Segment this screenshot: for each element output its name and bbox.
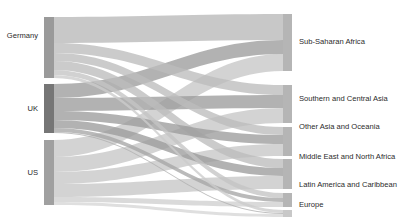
sankey-node-oao[interactable]: [283, 127, 292, 156]
sankey-node-europe[interactable]: [283, 210, 292, 217]
sankey-label-europe: Europe: [299, 200, 324, 209]
sankey-canvas: GermanyUKUSSub-Saharan AfricaSouthern an…: [0, 0, 413, 223]
sankey-links-layer: [54, 14, 283, 217]
sankey-label-oao: Other Asia and Oceania: [299, 122, 380, 131]
sankey-node-ssa[interactable]: [283, 14, 292, 71]
sankey-label-mena: Middle East and North Africa: [299, 152, 396, 161]
sankey-node-germany[interactable]: [44, 17, 54, 78]
sankey-node-us[interactable]: [44, 140, 54, 205]
sankey-node-mena[interactable]: [283, 159, 292, 189]
sankey-label-germany: Germany: [7, 31, 38, 40]
sankey-node-sca[interactable]: [283, 85, 292, 123]
sankey-label-uk: UK: [27, 104, 38, 113]
sankey-label-ssa: Sub-Saharan Africa: [299, 37, 366, 46]
sankey-link-germany-to-ssa[interactable]: [54, 14, 283, 43]
sankey-node-uk[interactable]: [44, 84, 54, 133]
sankey-node-lac[interactable]: [283, 193, 292, 207]
sankey-label-sca: Southern and Central Asia: [299, 94, 388, 103]
sankey-label-lac: Latin America and Caribbean: [299, 180, 397, 189]
sankey-diagram: GermanyUKUSSub-Saharan AfricaSouthern an…: [0, 0, 413, 223]
sankey-label-us: US: [27, 168, 38, 177]
